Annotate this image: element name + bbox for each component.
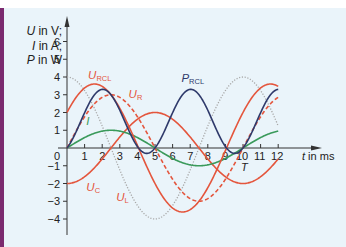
y-tick-label: 4 [54, 71, 60, 83]
y-tick-label: 6 [54, 36, 60, 48]
x-tick-label: 1 [82, 150, 88, 162]
x-tick-label: 3 [117, 150, 123, 162]
y-ticks: −4−3−2−1123456 [47, 36, 67, 226]
x-tick-label: 11 [254, 150, 265, 162]
series-label-ul: UL [116, 191, 128, 205]
x-tick-label: 7 [187, 150, 193, 162]
series-label-uc: UC [86, 181, 100, 195]
period-marker-label: T [241, 161, 249, 173]
y-axis-arrow-icon [65, 16, 70, 27]
y-tick-label: −2 [47, 178, 60, 190]
y-tick-label: −3 [47, 195, 60, 207]
chart-plot: 123456789101112−4−3−2−11234560t in msTUR… [0, 0, 346, 247]
y-tick-label: 2 [54, 107, 60, 119]
series-label-prcl: PRCL [181, 72, 204, 86]
y-tick-label: 1 [54, 124, 60, 136]
series-label-i: I [86, 115, 90, 127]
x-tick-label: 5 [152, 150, 158, 162]
x-axis-label: t in ms [302, 150, 335, 162]
series-label-urcl: URCL [88, 69, 111, 83]
y-tick-label: 5 [54, 53, 60, 65]
y-tick-label: 3 [54, 89, 60, 101]
series-label-ur: UR [129, 88, 143, 102]
origin-label: 0 [54, 150, 60, 162]
y-tick-label: −4 [47, 213, 60, 225]
